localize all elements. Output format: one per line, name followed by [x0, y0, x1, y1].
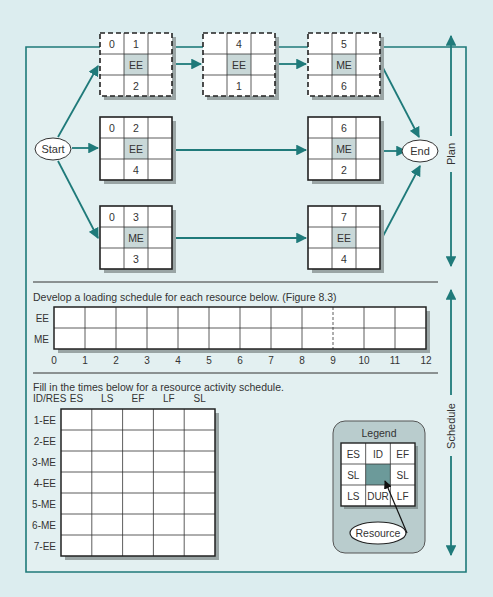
legend-resource-cell [366, 464, 391, 485]
node-duration: 4 [341, 253, 347, 265]
table-row-label: 6-ME [32, 520, 56, 531]
activity-node-3: 03ME3 [100, 206, 176, 273]
loading-tick: 5 [206, 355, 212, 366]
loading-row-label: EE [36, 313, 50, 324]
activity-node-7: 7EE4 [308, 206, 384, 273]
node-resource: EE [129, 143, 143, 155]
node-duration: 6 [341, 80, 347, 92]
legend-cell: EF [396, 449, 409, 460]
svg-text:End: End [410, 145, 430, 157]
loading-tick: 8 [299, 355, 305, 366]
loading-tick: 9 [330, 355, 336, 366]
node-id: 3 [133, 211, 139, 223]
activity-instruction: Fill in the times below for a resource a… [33, 381, 284, 393]
node-duration: 2 [133, 80, 139, 92]
loading-tick: 2 [113, 355, 119, 366]
legend-cell: ID [373, 449, 383, 460]
table-row-label: 4-EE [34, 478, 57, 489]
table-row-label: 7-EE [34, 541, 57, 552]
table-row-label: 5-ME [32, 499, 56, 510]
project-network-worksheet: Plan Schedule Start End 01EE202EE403ME34… [0, 0, 493, 597]
activity-node-5: 5ME6 [308, 33, 384, 100]
loading-row-label: ME [34, 334, 49, 345]
loading-instruction: Develop a loading schedule for each reso… [33, 291, 337, 303]
loading-tick: 1 [82, 355, 88, 366]
node-resource: ME [336, 59, 352, 71]
node-duration: 1 [236, 80, 242, 92]
loading-tick: 11 [390, 355, 401, 366]
node-es: 0 [109, 38, 115, 50]
loading-tick: 7 [268, 355, 274, 366]
start-node: Start [35, 138, 71, 160]
node-duration: 2 [341, 164, 347, 176]
table-header: LS [101, 393, 114, 404]
svg-text:Start: Start [41, 143, 64, 155]
legend-cell: LS [347, 491, 360, 502]
node-id: 7 [341, 211, 347, 223]
node-resource: EE [129, 59, 143, 71]
loading-tick: 6 [237, 355, 243, 366]
table-row-label: 3-ME [32, 457, 56, 468]
table-header: EF [132, 393, 145, 404]
legend-cell: SL [397, 470, 410, 481]
node-es: 0 [109, 211, 115, 223]
legend-cell: ES [347, 449, 361, 460]
loading-tick: 3 [144, 355, 150, 366]
node-resource: EE [232, 59, 246, 71]
legend-cell: SL [347, 470, 360, 481]
loading-tick: 12 [420, 355, 432, 366]
table-row-label: 1-EE [34, 415, 57, 426]
loading-tick: 4 [175, 355, 181, 366]
table-header: LF [163, 393, 175, 404]
node-id: 1 [133, 38, 139, 50]
table-header: ES [70, 393, 84, 404]
activity-node-2: 02EE4 [100, 117, 176, 184]
node-id: 5 [341, 38, 347, 50]
activity-node-6: 6ME2 [308, 117, 384, 184]
loading-tick: 10 [358, 355, 370, 366]
node-duration: 3 [133, 253, 139, 265]
node-resource: ME [128, 232, 144, 244]
table-header: ID/RES [33, 393, 67, 404]
table-header: SL [193, 393, 206, 404]
node-duration: 4 [133, 164, 139, 176]
node-id: 2 [133, 122, 139, 134]
end-node: End [402, 140, 438, 162]
activity-node-4: 4EE1 [203, 33, 279, 100]
schedule-label: Schedule [445, 403, 457, 449]
legend-cell: DUR [367, 491, 389, 502]
node-es: 0 [109, 122, 115, 134]
activity-node-1: 01EE2 [100, 33, 176, 100]
legend-resource-label: Resource [356, 527, 401, 539]
legend-box: LegendESIDEFSLSLLSDURLFResource [333, 421, 425, 553]
node-resource: EE [337, 232, 351, 244]
node-id: 4 [236, 38, 242, 50]
plan-label: Plan [445, 143, 457, 165]
node-id: 6 [341, 122, 347, 134]
loading-tick: 0 [51, 355, 57, 366]
table-row-label: 2-EE [34, 436, 57, 447]
legend-title: Legend [361, 427, 396, 439]
node-resource: ME [336, 143, 352, 155]
legend-cell: LF [397, 491, 409, 502]
